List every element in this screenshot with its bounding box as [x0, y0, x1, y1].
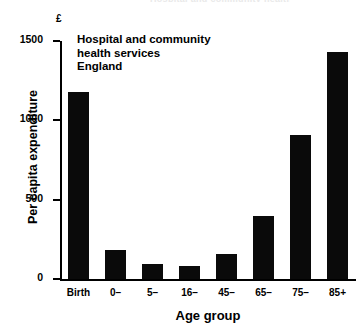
- y-tick-label-1000: 1000: [20, 112, 43, 124]
- x-axis-title: Age group: [60, 308, 356, 323]
- y-axis-line: [60, 41, 62, 279]
- bar-65–[interactable]: [253, 216, 274, 279]
- x-tick-label-45–: 45–: [208, 287, 245, 298]
- y-axis-title: Per capita expenditure: [26, 62, 40, 252]
- bar-0–[interactable]: [105, 250, 126, 279]
- bar-Birth[interactable]: [68, 92, 89, 279]
- bar-75–[interactable]: [290, 135, 311, 279]
- x-axis-line: [60, 279, 356, 281]
- y-tick-label-0: 0: [37, 271, 43, 283]
- x-tick-label-Birth: Birth: [60, 287, 97, 298]
- y-tick-1500: 1500: [53, 40, 60, 42]
- x-tick-label-85+: 85+: [319, 287, 356, 298]
- bar-45–[interactable]: [216, 254, 237, 279]
- x-tick-label-65–: 65–: [245, 287, 282, 298]
- y-tick-label-1500: 1500: [20, 33, 43, 45]
- y-tick-1000: 1000: [53, 119, 60, 121]
- figure-container: Hospital and community health £ Hospital…: [0, 0, 356, 330]
- y-axis-unit-label: £: [56, 14, 62, 24]
- x-tick-label-75–: 75–: [282, 287, 319, 298]
- y-tick-label-500: 500: [25, 192, 43, 204]
- x-tick-label-0–: 0–: [97, 287, 134, 298]
- y-tick-500: 500: [53, 199, 60, 201]
- bar-16–[interactable]: [179, 266, 200, 279]
- bar-5–[interactable]: [142, 264, 163, 279]
- x-tick-label-16–: 16–: [171, 287, 208, 298]
- x-tick-label-5–: 5–: [134, 287, 171, 298]
- y-tick-0: 0: [53, 278, 60, 280]
- cropped-page-title: Hospital and community health: [150, 0, 290, 2]
- plot-area: 050010001500 Birth0–5–16–45–65–75–85+: [60, 41, 356, 279]
- bar-85+[interactable]: [327, 52, 348, 279]
